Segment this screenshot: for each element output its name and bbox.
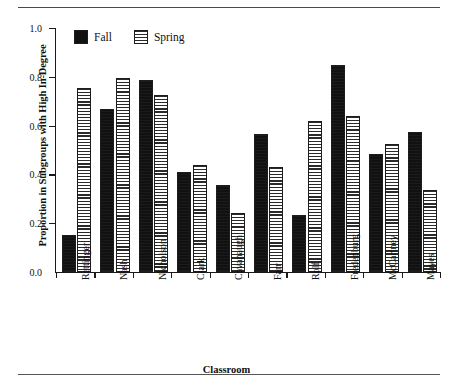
x-axis-tick xyxy=(440,272,441,278)
bar-chart-figure: Proportion in Subgroups with High In-Deg… xyxy=(0,8,453,356)
plot-area xyxy=(56,28,440,272)
y-axis-tick-label: 0.0 xyxy=(14,267,42,278)
x-axis-tick xyxy=(171,272,172,278)
x-axis-tick xyxy=(210,272,211,278)
solid-black-swatch xyxy=(74,30,88,44)
y-axis-tick-label: 0.8 xyxy=(14,71,42,82)
x-axis-tick xyxy=(94,272,95,278)
y-axis-tick xyxy=(49,223,56,224)
x-axis-tick xyxy=(248,272,249,278)
y-axis-tick xyxy=(49,77,56,78)
bar-fall-nicholson xyxy=(139,80,153,272)
y-axis-tick-label: 1.0 xyxy=(14,23,42,34)
y-axis-tick xyxy=(49,28,56,29)
bar-fall-nash xyxy=(100,109,114,272)
bar-fall-mayes xyxy=(408,132,422,272)
top-caption-text xyxy=(60,0,400,6)
bar-fall-farr xyxy=(254,134,268,272)
y-axis-tick-label: 0.6 xyxy=(14,120,42,131)
bar-spring-rolf xyxy=(308,121,322,272)
bar-fall-mccartney xyxy=(369,154,383,272)
bar-fall-rolf xyxy=(292,215,306,272)
legend-entry-spring: Spring xyxy=(134,30,185,44)
bottom-rule xyxy=(18,374,440,375)
y-axis-title: Proportion in Subgroups with High In-Deg… xyxy=(37,21,48,271)
bar-fall-rettinger xyxy=(62,235,76,272)
x-axis-tick xyxy=(133,272,134,278)
horizontal-striped-swatch xyxy=(134,30,148,44)
chart-legend: FallSpring xyxy=(74,30,185,44)
x-axis-tick xyxy=(363,272,364,278)
y-axis-tick-label: 0.4 xyxy=(14,169,42,180)
bar-fall-cavanaugh xyxy=(216,185,230,272)
bar-spring-clark xyxy=(193,165,207,272)
bar-fall-clark xyxy=(177,172,191,272)
x-axis-label-cavanaugh: Cavanaugh xyxy=(233,235,244,280)
bar-spring-nash xyxy=(116,78,130,272)
x-axis-tick xyxy=(286,272,287,278)
x-axis-label-rettinger: Rettinger xyxy=(80,243,91,280)
legend-label-fall: Fall xyxy=(94,31,112,43)
y-axis-tick xyxy=(49,174,56,175)
bar-spring-farr xyxy=(269,167,283,272)
x-axis-label-mayes: Mayes xyxy=(425,253,436,280)
x-axis-label-nash: Nash xyxy=(118,259,129,280)
x-axis-label-farr: Farr xyxy=(272,263,283,280)
x-axis-label-clark: Clark xyxy=(195,258,206,280)
x-axis-label-fredenburg: Fredenburg xyxy=(349,234,360,280)
bar-fall-fredenburg xyxy=(331,65,345,272)
x-axis-label-mccartney: McCartney xyxy=(387,235,398,280)
legend-entry-fall: Fall xyxy=(74,30,112,44)
x-axis-tick xyxy=(56,272,57,278)
x-axis-label-nicholson: Nicholson xyxy=(157,239,168,280)
x-axis-tick xyxy=(325,272,326,278)
x-axis-tick xyxy=(402,272,403,278)
legend-label-spring: Spring xyxy=(154,31,185,43)
y-axis-tick xyxy=(49,126,56,127)
x-axis-label-rolf: Rolf xyxy=(310,262,321,280)
y-axis-tick-label: 0.2 xyxy=(14,218,42,229)
